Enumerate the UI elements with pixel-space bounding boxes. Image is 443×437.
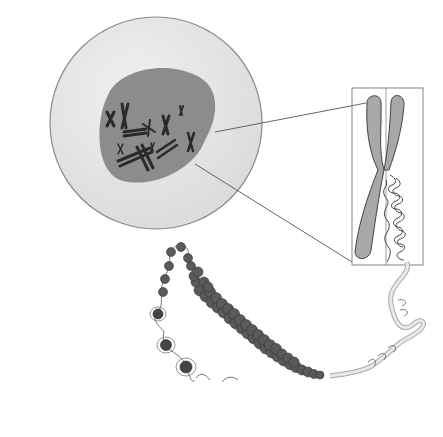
chromosome-diagram (0, 0, 443, 437)
dna-helix (330, 262, 423, 376)
chromosome-callout (352, 88, 423, 265)
diagram-canvas (0, 0, 443, 437)
coiled-chromatin (384, 175, 406, 262)
chromatin-fiber (189, 267, 324, 379)
